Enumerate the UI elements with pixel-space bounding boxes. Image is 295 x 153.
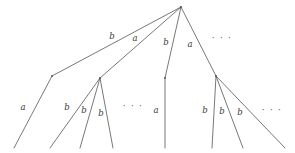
edges-layer: [14, 7, 285, 148]
right-fan-node: [215, 75, 217, 77]
edge-root-to-right-fan-label: a: [187, 39, 192, 49]
ellipses-layer: · · ·· · ·· · ·: [123, 33, 282, 115]
edge-left-fan-to-leaf-2: [50, 78, 100, 148]
tree-diagram: babaabbbabbb · · ·· · ·· · ·: [0, 0, 295, 153]
left-fan-node: [99, 77, 101, 79]
edge-middle-bend-to-leaf-5-label: a: [153, 105, 158, 115]
edge-left-bend-to-leaf-1-label: a: [20, 102, 25, 112]
edge-root-to-left-bend-label: b: [109, 31, 114, 41]
edge-left-fan-to-leaf-2-label: b: [64, 102, 69, 112]
left-bend-node: [51, 75, 53, 77]
edge-right-fan-to-leaf-7-label: b: [219, 106, 224, 116]
edge-root-to-middle-bend-label: b: [163, 37, 168, 47]
edge-right-fan-to-leaf-8-label: b: [237, 107, 242, 117]
edge-root-to-left-fan: [100, 7, 181, 78]
edge-root-to-left-fan-label: a: [132, 33, 137, 43]
edge-root-to-left-bend: [52, 7, 181, 76]
edge-left-fan-to-leaf-4-label: b: [98, 108, 103, 118]
edge-right-fan-to-leaf-6: [212, 76, 216, 148]
ellipsis-lower-right: · · ·: [262, 105, 282, 115]
edge-right-fan-to-leaf-6-label: b: [202, 105, 207, 115]
edge-left-fan-to-leaf-3-label: b: [81, 105, 86, 115]
ellipsis-top-right: · · ·: [212, 33, 232, 43]
middle-bend-node: [164, 77, 166, 79]
root-node: [180, 6, 182, 8]
ellipsis-lower-middle: · · ·: [123, 101, 143, 111]
edge-left-bend-to-leaf-1: [14, 76, 52, 148]
edge-root-to-right-fan: [181, 7, 216, 76]
